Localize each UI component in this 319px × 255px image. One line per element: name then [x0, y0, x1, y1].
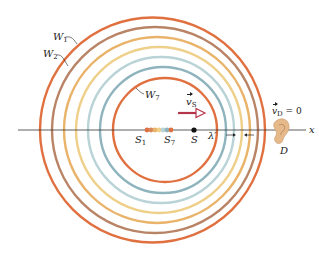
w7-sub: 7	[155, 94, 159, 102]
ear-detector-icon	[274, 119, 289, 144]
w1-main: W	[53, 31, 63, 42]
s1-main: S	[135, 134, 142, 145]
label-detector: D	[280, 146, 288, 156]
w7-leader-line	[136, 88, 144, 94]
source-positions	[145, 128, 174, 133]
velocity-arrow-icon	[178, 109, 205, 118]
source-position-7	[169, 128, 174, 133]
label-w2: W2	[43, 49, 58, 61]
label-w1: W1	[53, 32, 68, 44]
s7-main: S	[164, 134, 171, 145]
w7-main: W	[145, 89, 155, 100]
label-vd: vD = 0	[272, 107, 302, 118]
w1-sub: 1	[63, 36, 67, 44]
label-x-axis: x	[309, 125, 315, 135]
label-vs: vS	[186, 97, 196, 109]
s7-sub: 7	[171, 139, 175, 147]
label-s7: S7	[164, 135, 175, 147]
vd-main: v	[272, 107, 277, 116]
s1-sub: 1	[142, 139, 146, 147]
vs-sub: S	[192, 101, 197, 109]
label-s1: S1	[135, 135, 146, 147]
w2-sub: 2	[53, 53, 57, 61]
label-w7: W7	[145, 90, 160, 102]
vs-main: v	[186, 97, 192, 107]
label-s: S	[191, 135, 198, 145]
doppler-diagram	[0, 0, 319, 255]
vd-eq: = 0	[283, 106, 302, 116]
source-s-dot	[191, 127, 196, 132]
w2-main: W	[43, 48, 53, 59]
label-lambda-prime: λ′	[208, 131, 217, 141]
